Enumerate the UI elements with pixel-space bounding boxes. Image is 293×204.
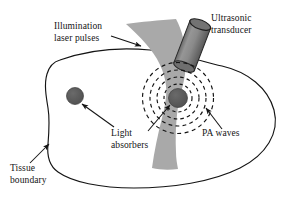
tissue-boundary-arrow bbox=[30, 144, 49, 163]
illumination-arrow bbox=[111, 36, 141, 46]
label-tissue-boundary-line1: Tissue bbox=[10, 163, 35, 173]
label-pa-waves: PA waves bbox=[202, 128, 240, 138]
label-tissue-boundary: Tissue boundary bbox=[10, 163, 47, 185]
label-ultrasonic-transducer: Ultrasonic transducer bbox=[211, 13, 254, 35]
label-illumination-line2: laser pulses bbox=[54, 33, 99, 43]
label-ultrasonic-line1: Ultrasonic bbox=[211, 13, 252, 23]
left-absorber bbox=[67, 88, 84, 105]
photoacoustic-figure: Illumination laser pulses Ultrasonic tra… bbox=[0, 0, 293, 204]
label-ultrasonic-line2: transducer bbox=[211, 25, 252, 35]
label-light-absorbers-line1: Light bbox=[111, 128, 132, 138]
center-absorber bbox=[169, 89, 188, 108]
label-illumination-line1: Illumination bbox=[54, 21, 102, 31]
figure-canvas: Illumination laser pulses Ultrasonic tra… bbox=[0, 0, 293, 204]
label-illumination: Illumination laser pulses bbox=[54, 21, 105, 43]
label-tissue-boundary-line2: boundary bbox=[10, 175, 47, 185]
label-pa-waves-line1: PA waves bbox=[202, 128, 240, 138]
label-light-absorbers-line2: absorbers bbox=[111, 140, 149, 150]
